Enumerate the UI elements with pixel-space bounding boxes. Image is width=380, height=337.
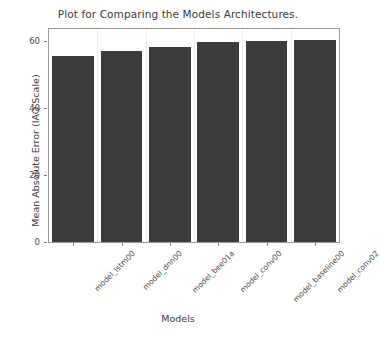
x-tick-label: model_bee01a — [190, 249, 236, 295]
bar-model_lstm00 — [52, 56, 94, 242]
y-axis-label: Mean Absolute Error (IAQ Scale) — [30, 46, 41, 256]
x-tick-mark — [218, 243, 219, 246]
bar-model_dnn00 — [101, 51, 143, 242]
bar-model_conv02 — [294, 40, 336, 242]
chart-title: Plot for Comparing the Models Architectu… — [0, 8, 356, 20]
y-tick-label: 0 — [6, 237, 40, 247]
y-tick-label: 40 — [6, 103, 40, 113]
bar-model_baseline00 — [246, 41, 288, 242]
vertical-gridline — [146, 29, 147, 242]
y-tick-label: 20 — [6, 170, 40, 180]
x-tick-mark — [267, 243, 268, 246]
y-tick-mark — [44, 242, 47, 243]
x-tick-mark — [122, 243, 123, 246]
y-tick-mark — [44, 175, 47, 176]
x-tick-label: model_lstm00 — [93, 249, 137, 293]
vertical-gridline — [97, 29, 98, 242]
x-axis-label: Models — [0, 313, 356, 324]
vertical-gridline — [194, 29, 195, 242]
x-tick-mark — [73, 243, 74, 246]
x-tick-label: model_conv00 — [238, 249, 283, 294]
vertical-gridline — [242, 29, 243, 242]
y-tick-mark — [44, 41, 47, 42]
plot-area — [48, 28, 340, 243]
y-tick-label: 60 — [6, 36, 40, 46]
x-tick-mark — [315, 243, 316, 246]
bar-model_bee01a — [149, 47, 191, 242]
x-tick-label: model_baseline00 — [291, 249, 346, 304]
x-tick-label: model_dnn00 — [141, 249, 184, 292]
vertical-gridline — [291, 29, 292, 242]
y-tick-mark — [44, 108, 47, 109]
bar-model_conv00 — [197, 42, 239, 242]
x-tick-mark — [170, 243, 171, 246]
